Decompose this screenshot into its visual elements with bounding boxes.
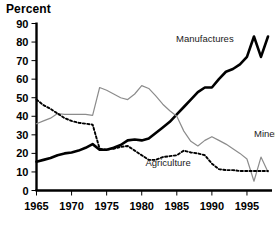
series-label-agriculture: Agriculture xyxy=(145,157,190,168)
x-tick-label-1975: 1975 xyxy=(94,200,118,212)
y-tick-label-20: 20 xyxy=(16,147,28,159)
y-tick-label-40: 40 xyxy=(16,110,28,122)
y-axis-tick-labels: 0102030405060708090 xyxy=(16,18,28,197)
x-tick-label-1965: 1965 xyxy=(24,200,48,212)
x-tick-label-1980: 1980 xyxy=(129,200,153,212)
y-tick-label-80: 80 xyxy=(16,36,28,48)
x-tick-label-1990: 1990 xyxy=(200,200,224,212)
y-tick-label-0: 0 xyxy=(22,185,28,197)
series-annotations: ManufacturesMineralsAgriculture xyxy=(145,33,275,168)
y-tick-label-50: 50 xyxy=(16,92,28,104)
x-tick-label-1985: 1985 xyxy=(165,200,189,212)
y-tick-label-10: 10 xyxy=(16,166,28,178)
series-label-manufactures: Manufactures xyxy=(176,33,234,44)
chart-container: Percent 0102030405060708090 196519701975… xyxy=(0,0,275,226)
y-tick-label-60: 60 xyxy=(16,73,28,85)
y-tick-label-70: 70 xyxy=(16,55,28,67)
line-chart-plot: 0102030405060708090 19651970197519801985… xyxy=(0,0,275,226)
x-tick-label-1970: 1970 xyxy=(59,200,83,212)
series-line-manufactures xyxy=(37,36,269,161)
series-label-minerals: Minerals xyxy=(254,128,275,139)
x-axis-tick-labels: 1965197019751980198519901995 xyxy=(24,200,259,212)
y-tick-label-30: 30 xyxy=(16,129,28,141)
x-tick-label-1995: 1995 xyxy=(235,200,259,212)
y-tick-label-90: 90 xyxy=(16,18,28,30)
